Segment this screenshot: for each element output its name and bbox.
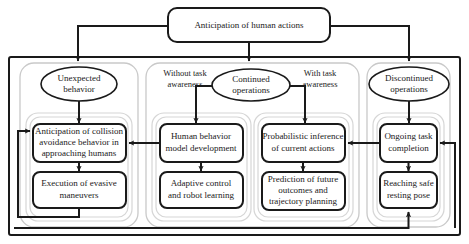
root-label: Anticipation of human actions [194,20,304,30]
human-behavior-line1: Human behavior [171,131,231,141]
execution-evasive-line1: Execution of evasive [41,178,116,188]
ongoing-task-line1: Ongoing task [384,131,433,141]
diagram-canvas: Anticipation of human actions Unexpected… [0,0,469,244]
connector-root-to-unexpected [78,26,168,61]
ongoing-task-line2: completion [388,143,429,153]
reaching-safe-line1: Reaching safe [383,178,434,188]
discontinued-operations-line2: operations [390,84,428,94]
unexpected-behavior-line1: Unexpected [58,73,101,83]
feedback-bottom-rail-to-reaching-safe [14,212,409,228]
prediction-future-line3: trajectory planning [269,196,338,206]
execution-evasive-line2: maneuvers [60,190,99,200]
anticipation-collision-line1: Anticipation of collision [35,126,123,136]
prediction-future-line2: outcomes and [278,185,328,195]
flowchart-svg: Anticipation of human actions Unexpected… [0,0,469,244]
continued-operations-line2: operations [232,85,270,95]
probabilistic-inference-line1: Probabilistic inference [262,131,343,141]
adaptive-control-line1: Adaptive control [171,178,232,188]
label-with-task-awareness-line1: With task [304,68,337,78]
probabilistic-inference-line2: of current actions [272,143,335,153]
prediction-future-line1: Prediction of future [268,174,338,184]
label-with-task-awareness-line2: awareness [303,79,338,89]
discontinued-operations-line1: Discontinued [385,73,433,83]
label-without-task-awareness-line1: Without task [163,68,207,78]
adaptive-control-line2: and robot learning [168,190,234,200]
human-behavior-line2: model development [165,143,237,153]
reaching-safe-line2: resting pose [387,190,430,200]
anticipation-collision-line3: approaching humans [42,148,117,158]
label-without-task-awareness-line2: awareness [168,79,203,89]
anticipation-collision-line2: avoidance behavior in [39,137,119,147]
unexpected-behavior-line2: behavior [63,84,95,94]
connector-root-to-discontinued [330,26,409,61]
continued-operations-line1: Continued [232,74,270,84]
